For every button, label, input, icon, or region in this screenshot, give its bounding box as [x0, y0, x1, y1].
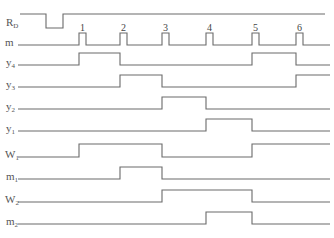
signal-subscript: 1 [12, 128, 16, 136]
waveform-w2 [18, 190, 330, 202]
signal-label: m [5, 36, 14, 48]
waveform-m [18, 33, 330, 45]
signal-label: RD [6, 16, 18, 30]
signal-subscript: 4 [12, 62, 16, 70]
signal-subscript: 2 [15, 199, 19, 207]
waveform-rd [20, 14, 325, 28]
signal-label: m1 [6, 170, 19, 184]
pulse-number-label: 4 [207, 22, 212, 33]
signal-subscript: 1 [15, 176, 19, 184]
signal-label: y1 [6, 122, 16, 136]
pulse-number-label: 3 [163, 22, 168, 33]
signal-label: W1 [5, 148, 19, 162]
waveform-m2 [18, 212, 330, 224]
waveform-w1 [18, 144, 330, 157]
signal-subscript: 2 [15, 221, 19, 229]
signal-label: m2 [6, 215, 19, 229]
pulse-number-label: 2 [121, 22, 126, 33]
signal-subscript: 3 [12, 84, 16, 92]
signal-name: W [5, 193, 16, 205]
signal-subscript: 1 [15, 154, 19, 162]
signal-label: y4 [6, 56, 16, 70]
signal-subscript: D [13, 22, 18, 30]
waveform-y3 [18, 75, 330, 87]
pulse-number-label: 5 [253, 22, 258, 33]
pulse-number-label: 6 [297, 22, 302, 33]
waveform-m1 [18, 167, 330, 179]
signal-label: W2 [5, 193, 19, 207]
signal-label: y3 [6, 78, 16, 92]
pulse-number-label: 1 [80, 22, 85, 33]
waveform-y4 [18, 53, 330, 65]
signal-name: W [5, 148, 16, 160]
signal-name: m [5, 36, 14, 48]
signal-subscript: 2 [12, 106, 16, 114]
timing-diagram: RD123456my4y3y2y1W1m1W2m2 [0, 0, 334, 238]
signal-label: y2 [6, 100, 16, 114]
waveform-y2 [18, 97, 330, 109]
waveform-y1 [18, 119, 330, 131]
